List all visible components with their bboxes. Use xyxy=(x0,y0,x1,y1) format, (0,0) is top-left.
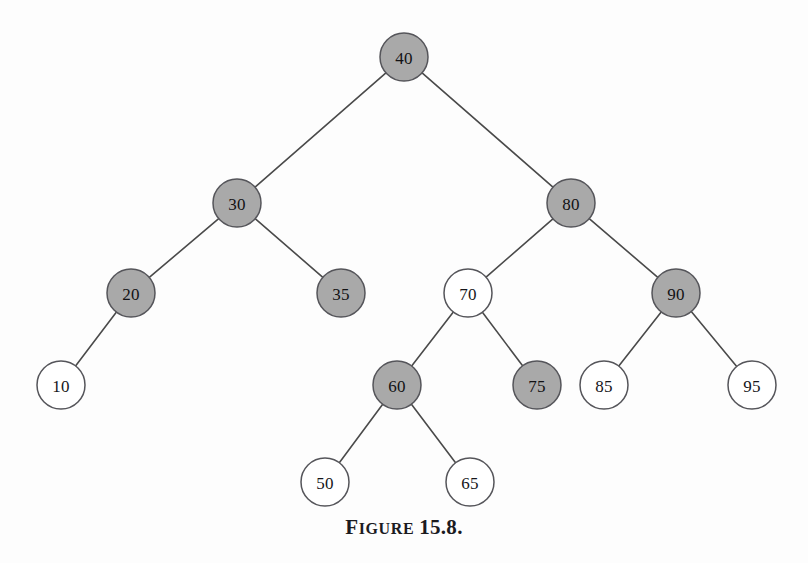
tree-edge xyxy=(486,219,553,277)
tree-node: 90 xyxy=(652,269,700,317)
tree-node: 75 xyxy=(513,361,561,409)
tree-edge xyxy=(255,219,323,278)
tree-node-label: 35 xyxy=(332,285,349,304)
figure-caption-label-initial: F xyxy=(345,515,358,539)
tree-edge xyxy=(422,73,553,187)
tree-node: 95 xyxy=(728,361,776,409)
figure-container: 4030802035709010607585955065 FIGURE15.8. xyxy=(0,0,808,563)
tree-node-label: 60 xyxy=(388,377,405,396)
tree-node: 50 xyxy=(301,458,349,506)
tree-edge xyxy=(412,312,454,366)
tree-edge xyxy=(339,404,382,462)
figure-caption-number: 15.8. xyxy=(419,515,463,539)
tree-node: 70 xyxy=(444,269,492,317)
tree-node: 20 xyxy=(107,269,155,317)
tree-node-label: 80 xyxy=(562,195,579,214)
tree-edge xyxy=(619,312,661,366)
tree-node: 85 xyxy=(580,361,628,409)
tree-node-label: 65 xyxy=(461,474,478,493)
binary-tree-diagram: 4030802035709010607585955065 xyxy=(0,0,808,563)
tree-node-label: 70 xyxy=(459,285,476,304)
tree-edge xyxy=(482,312,522,366)
node-layer: 4030802035709010607585955065 xyxy=(37,33,776,506)
tree-node: 60 xyxy=(373,361,421,409)
figure-caption-label-rest: IGURE xyxy=(359,520,414,537)
tree-node: 65 xyxy=(446,458,494,506)
tree-edge xyxy=(255,73,386,187)
tree-node-label: 75 xyxy=(528,377,545,396)
tree-node-label: 40 xyxy=(395,49,412,68)
tree-edge xyxy=(76,312,117,366)
figure-caption: FIGURE15.8. xyxy=(0,515,808,540)
tree-edge xyxy=(589,219,658,278)
tree-node-label: 90 xyxy=(667,285,684,304)
tree-node: 10 xyxy=(37,361,85,409)
tree-edge xyxy=(691,312,736,367)
tree-node-label: 30 xyxy=(228,195,245,214)
tree-node-label: 10 xyxy=(52,377,69,396)
tree-node: 30 xyxy=(213,179,261,227)
tree-node-label: 20 xyxy=(122,285,139,304)
tree-node: 40 xyxy=(380,33,428,81)
tree-node-label: 95 xyxy=(743,377,760,396)
tree-edge xyxy=(149,219,218,278)
tree-node: 80 xyxy=(547,179,595,227)
tree-node: 35 xyxy=(317,269,365,317)
figure-caption-label: FIGURE xyxy=(345,520,414,537)
tree-node-label: 85 xyxy=(595,377,612,396)
tree-node-label: 50 xyxy=(316,474,333,493)
tree-edge xyxy=(411,404,455,463)
